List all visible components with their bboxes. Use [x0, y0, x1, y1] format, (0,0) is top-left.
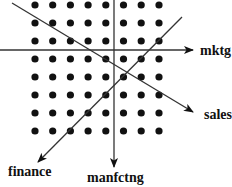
axis-lines — [0, 0, 193, 167]
grid-dot — [31, 55, 38, 62]
grid-dot — [49, 91, 56, 98]
grid-dot — [85, 127, 92, 134]
grid-dot — [120, 91, 127, 98]
grid-dot — [138, 91, 145, 98]
grid-dot — [138, 37, 145, 44]
dot-grid — [31, 1, 162, 134]
finance-axis-arrow — [38, 17, 182, 162]
grid-dot — [102, 109, 109, 116]
grid-dot — [120, 109, 127, 116]
grid-dot — [102, 127, 109, 134]
grid-dot — [49, 37, 56, 44]
grid-dot — [120, 127, 127, 134]
manfctng-label: manfctng — [87, 170, 144, 185]
grid-dot — [120, 73, 127, 80]
grid-dot — [155, 1, 162, 8]
grid-dot — [102, 1, 109, 8]
grid-dot — [31, 19, 38, 26]
grid-dot — [67, 109, 74, 116]
grid-dot — [120, 1, 127, 8]
grid-dot — [49, 127, 56, 134]
axis-labels: mktg sales finance manfctng — [8, 43, 232, 185]
sales-label: sales — [204, 107, 232, 122]
grid-dot — [102, 73, 109, 80]
grid-dot — [49, 109, 56, 116]
grid-dot — [155, 55, 162, 62]
grid-dot — [155, 109, 162, 116]
grid-dot — [138, 109, 145, 116]
grid-dot — [67, 73, 74, 80]
grid-dot — [85, 19, 92, 26]
mktg-label: mktg — [200, 43, 231, 58]
grid-dot — [120, 19, 127, 26]
grid-dot — [67, 19, 74, 26]
grid-dot — [31, 1, 38, 8]
grid-dot — [155, 19, 162, 26]
grid-dot — [102, 19, 109, 26]
grid-dot — [155, 73, 162, 80]
grid-dot — [85, 91, 92, 98]
axes-diagram: mktg sales finance manfctng — [0, 0, 232, 187]
grid-dot — [31, 127, 38, 134]
grid-dot — [49, 73, 56, 80]
grid-dot — [155, 127, 162, 134]
grid-dot — [138, 19, 145, 26]
grid-dot — [120, 37, 127, 44]
grid-dot — [138, 127, 145, 134]
finance-label: finance — [8, 164, 52, 179]
grid-dot — [31, 73, 38, 80]
grid-dot — [120, 55, 127, 62]
grid-dot — [85, 1, 92, 8]
grid-dot — [31, 109, 38, 116]
grid-dot — [49, 55, 56, 62]
grid-dot — [85, 109, 92, 116]
grid-dot — [138, 1, 145, 8]
grid-dot — [85, 55, 92, 62]
grid-dot — [85, 37, 92, 44]
grid-dot — [31, 37, 38, 44]
grid-dot — [49, 1, 56, 8]
grid-dot — [31, 91, 38, 98]
grid-dot — [85, 73, 92, 80]
grid-dot — [67, 1, 74, 8]
grid-dot — [67, 55, 74, 62]
grid-dot — [67, 91, 74, 98]
grid-dot — [102, 91, 109, 98]
grid-dot — [102, 37, 109, 44]
